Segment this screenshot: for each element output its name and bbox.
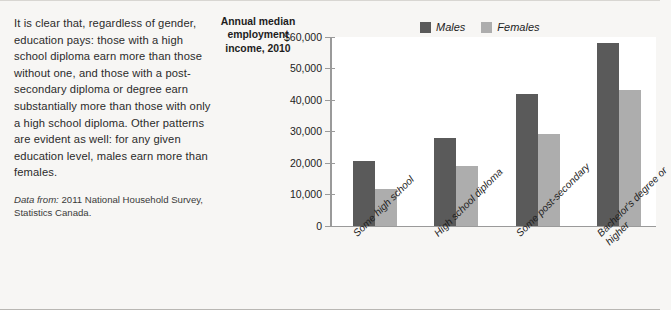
legend-item-females: Females xyxy=(481,21,539,33)
bar-males xyxy=(516,94,538,225)
y-tick-label: 50,000 xyxy=(290,62,322,74)
y-tick-label: 0 xyxy=(316,220,322,232)
legend-swatch-females xyxy=(481,22,492,33)
legend-label-males: Males xyxy=(436,21,465,33)
x-axis-category-labels: Some high schoolHigh school diplomaSome … xyxy=(330,231,656,310)
source-label: Data from: xyxy=(14,194,59,205)
caption-block: It is clear that, regardless of gender, … xyxy=(14,15,219,219)
y-tick-label: 30,000 xyxy=(290,125,322,137)
chart-legend: Males Females xyxy=(420,21,540,33)
plot-area: $60,00050,00040,00030,00020,00010,0000 xyxy=(330,37,656,227)
caption-paragraph: It is clear that, regardless of gender, … xyxy=(14,15,219,181)
y-tick-label: 40,000 xyxy=(290,94,322,106)
y-tick-label: 10,000 xyxy=(290,188,322,200)
source-note: Data from: 2011 National Household Surve… xyxy=(14,193,219,219)
legend-item-males: Males xyxy=(420,21,465,33)
bar-males xyxy=(597,43,619,225)
legend-swatch-males xyxy=(420,22,431,33)
bar-chart: Annual median employment income, 2010 Ma… xyxy=(220,9,656,305)
legend-label-females: Females xyxy=(497,21,539,33)
y-tick-label: 20,000 xyxy=(290,157,322,169)
y-tick-label: $60,000 xyxy=(284,31,322,43)
bars-layer xyxy=(330,37,656,227)
